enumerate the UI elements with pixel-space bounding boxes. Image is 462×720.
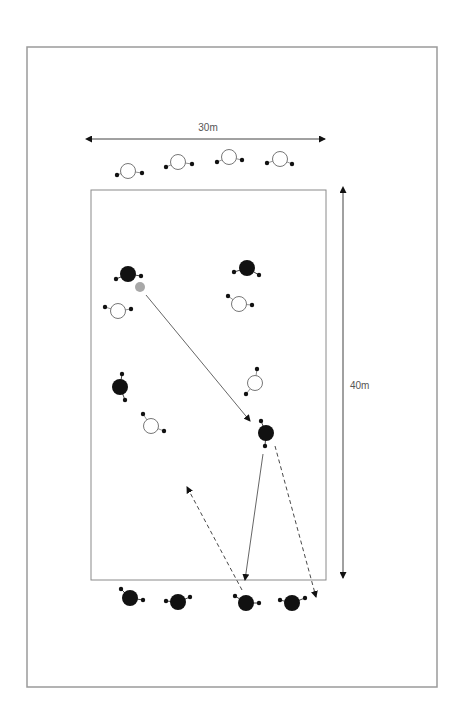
player-hand: [140, 171, 144, 175]
drill-diagram: 30m 40m: [0, 0, 462, 720]
player-open: [215, 150, 244, 165]
player-open: [115, 164, 144, 179]
player-solid: [232, 260, 261, 277]
player-body: [238, 595, 254, 611]
player-body: [222, 150, 237, 165]
player-hand: [226, 294, 230, 298]
player-body: [248, 376, 263, 391]
player-hand: [215, 160, 219, 164]
player-open: [103, 304, 133, 319]
player-hand: [188, 595, 192, 599]
player-body: [171, 155, 186, 170]
player-solid: [278, 595, 307, 611]
player-open: [164, 155, 194, 170]
team-solid-players: [112, 260, 307, 611]
player-hand: [139, 274, 143, 278]
player-solid: [119, 587, 145, 606]
player-hand: [123, 398, 127, 402]
player-solid: [112, 372, 128, 402]
player-hand: [141, 598, 145, 602]
pass-arrow: [146, 295, 250, 421]
player-hand: [129, 307, 133, 311]
player-body: [120, 266, 136, 282]
ball: [135, 282, 145, 292]
player-hand: [244, 392, 248, 396]
run-arrow: [275, 446, 316, 597]
pass-arrow: [245, 454, 263, 580]
player-hand: [233, 594, 237, 598]
player-hand: [119, 587, 123, 591]
player-open: [265, 152, 294, 167]
player-body: [170, 594, 186, 610]
player-hand: [290, 162, 294, 166]
player-hand: [250, 303, 254, 307]
player-open: [226, 294, 254, 312]
player-hand: [190, 162, 194, 166]
player-body: [112, 379, 128, 395]
player-solid: [164, 594, 192, 610]
player-hand: [257, 601, 261, 605]
player-hand: [265, 161, 269, 165]
player-hand: [103, 305, 107, 309]
player-hand: [257, 273, 261, 277]
player-hand: [278, 598, 282, 602]
player-hand: [141, 412, 145, 416]
player-body: [258, 425, 274, 441]
player-body: [122, 590, 138, 606]
player-hand: [162, 429, 166, 433]
player-body: [121, 164, 136, 179]
player-body: [111, 304, 126, 319]
player-body: [144, 419, 159, 434]
player-hand: [240, 158, 244, 162]
player-open: [141, 412, 166, 434]
player-solid: [233, 594, 261, 611]
player-body: [239, 260, 255, 276]
player-hand: [259, 419, 263, 423]
player-solid: [258, 419, 274, 448]
player-hand: [114, 277, 118, 281]
player-hand: [263, 444, 267, 448]
player-hand: [303, 596, 307, 600]
player-hand: [164, 599, 168, 603]
player-hand: [115, 173, 119, 177]
player-solid: [114, 266, 143, 282]
player-hand: [164, 165, 168, 169]
run-arrow: [187, 487, 242, 590]
player-hand: [255, 367, 259, 371]
outer-frame: [27, 47, 437, 687]
player-hand: [232, 270, 236, 274]
team-open-players: [103, 150, 294, 434]
player-body: [232, 297, 247, 312]
width-dimension-label: 30m: [198, 122, 217, 133]
player-hand: [120, 372, 124, 376]
player-body: [284, 595, 300, 611]
player-open: [244, 367, 263, 396]
movement-arrows: [146, 295, 316, 597]
length-dimension-label: 40m: [350, 380, 369, 391]
player-body: [273, 152, 288, 167]
